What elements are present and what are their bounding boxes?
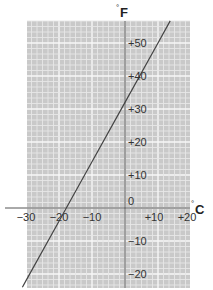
x-tick-label: −10 <box>83 211 102 223</box>
y-tick-label: −20 <box>128 268 147 280</box>
y-tick-label: +10 <box>128 169 147 181</box>
x-tick-label: +20 <box>178 211 197 223</box>
y-tick-label: +30 <box>128 103 147 115</box>
svg-text:°: ° <box>191 199 194 208</box>
y-tick-label: +50 <box>128 37 147 49</box>
x-tick-label: +10 <box>145 211 164 223</box>
svg-text:°: ° <box>116 3 119 12</box>
fahrenheit-label: F <box>120 5 128 20</box>
x-tick-label: −30 <box>17 211 36 223</box>
celsius-label: C <box>195 202 205 217</box>
y-tick-label: +40 <box>128 70 147 82</box>
y-tick-label: −10 <box>128 235 147 247</box>
y-tick-label: +20 <box>128 136 147 148</box>
conversion-chart: −30−20−10+10+20 +50+40+30+20+100−10−20 °… <box>0 0 213 290</box>
y-tick-label: 0 <box>128 195 134 207</box>
x-tick-label: −20 <box>50 211 69 223</box>
y-axis-unit-label: ° F <box>116 3 128 20</box>
